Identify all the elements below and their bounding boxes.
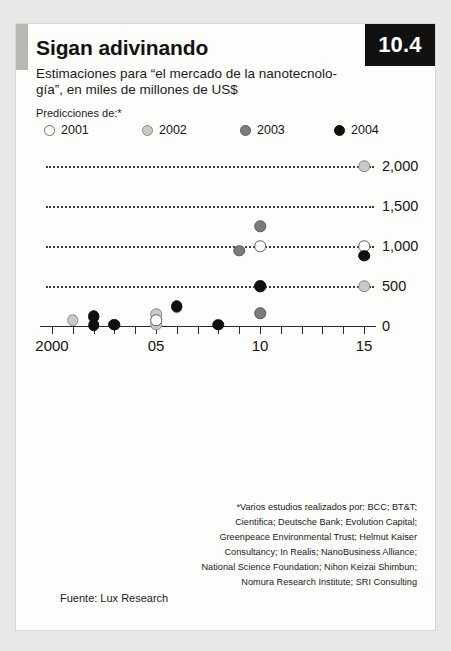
data-point bbox=[254, 220, 266, 232]
x-axis-tick-2010 bbox=[260, 327, 261, 334]
footnote-line: Nomura Research Institute; SRI Consultin… bbox=[117, 575, 417, 590]
y-axis-label-500: 500 bbox=[382, 278, 406, 294]
legend-item-2002[interactable]: 2002 bbox=[142, 123, 187, 137]
figure-number-badge: 10.4 bbox=[365, 24, 435, 66]
legend-marker-icon bbox=[334, 125, 345, 136]
data-point bbox=[88, 319, 100, 331]
page-root: 10.4 Sigan adivinando Estimaciones para … bbox=[0, 0, 451, 651]
left-accent-bar bbox=[16, 24, 28, 70]
data-point bbox=[358, 160, 370, 172]
footnote-line: Greenpeace Environmental Trust; Helmut K… bbox=[117, 530, 417, 545]
chart-subtitle: Estimaciones para “el mercado de la nano… bbox=[36, 66, 356, 99]
x-axis-tick-2014 bbox=[343, 327, 344, 334]
x-axis-tick-2011 bbox=[281, 327, 282, 334]
data-point bbox=[233, 245, 245, 257]
figure-number-text: 10.4 bbox=[378, 32, 422, 58]
legend-item-2001[interactable]: 2001 bbox=[44, 123, 89, 137]
legend-marker-icon bbox=[44, 125, 55, 136]
x-axis-tick-2012 bbox=[302, 327, 303, 334]
data-point bbox=[254, 307, 266, 319]
y-axis-label-0: 0 bbox=[382, 318, 390, 334]
x-axis-tick-2013 bbox=[322, 327, 323, 334]
data-point bbox=[171, 301, 183, 313]
data-point bbox=[67, 315, 79, 327]
x-axis-tick-2001 bbox=[73, 327, 74, 334]
legend-marker-icon bbox=[240, 125, 251, 136]
scatter-plot: 05001,0001,5002,0002000051015 bbox=[16, 154, 435, 344]
gridline-1500 bbox=[46, 206, 374, 208]
figure-card: 10.4 Sigan adivinando Estimaciones para … bbox=[16, 24, 435, 630]
legend-item-2003[interactable]: 2003 bbox=[240, 123, 285, 137]
legend-item-label: 2002 bbox=[159, 123, 187, 137]
legend-item-2004[interactable]: 2004 bbox=[334, 123, 379, 137]
x-axis-label-10: 10 bbox=[252, 337, 269, 354]
footnote-line: Cientifica; Deutsche Bank; Evolution Cap… bbox=[117, 515, 417, 530]
gridline-500 bbox=[46, 286, 374, 288]
legend-marker-icon bbox=[142, 125, 153, 136]
predictions-label: Predicciones de:* bbox=[36, 107, 122, 119]
legend-item-label: 2004 bbox=[351, 123, 379, 137]
y-axis-label-2000: 2,000 bbox=[382, 158, 418, 174]
data-point bbox=[254, 240, 266, 252]
data-point bbox=[358, 280, 370, 292]
footnote: *Varios estudios realizados por: BCC; BT… bbox=[117, 500, 417, 589]
x-axis-tick-2004 bbox=[135, 327, 136, 334]
data-point bbox=[150, 314, 162, 326]
y-axis-label-1500: 1,500 bbox=[382, 198, 418, 214]
x-axis-label-2000: 2000 bbox=[35, 337, 68, 354]
gridline-2000 bbox=[46, 166, 374, 168]
data-point bbox=[358, 250, 370, 262]
x-axis-tick-2007 bbox=[198, 327, 199, 334]
chart-legend: 2001200220032004 bbox=[44, 123, 404, 143]
legend-item-label: 2001 bbox=[61, 123, 89, 137]
x-axis-tick-2000 bbox=[52, 327, 53, 334]
page-title: Sigan adivinando bbox=[36, 36, 208, 60]
gridline-1000 bbox=[46, 246, 374, 248]
x-axis-tick-2009 bbox=[239, 327, 240, 334]
source-note: Fuente: Lux Research bbox=[60, 592, 168, 604]
footnote-line: *Varios estudios realizados por: BCC; BT… bbox=[117, 500, 417, 515]
y-axis-label-1000: 1,000 bbox=[382, 238, 418, 254]
data-point bbox=[254, 280, 266, 292]
footnote-line: National Science Foundation; Nihon Keiza… bbox=[117, 560, 417, 575]
x-axis-label-15: 15 bbox=[356, 337, 373, 354]
x-axis-tick-2015 bbox=[364, 327, 365, 334]
footnote-line: Consultancy; In Realis; NanoBusiness All… bbox=[117, 545, 417, 560]
data-point bbox=[109, 319, 121, 331]
data-point bbox=[213, 319, 225, 331]
x-axis-tick-2006 bbox=[177, 327, 178, 334]
legend-item-label: 2003 bbox=[257, 123, 285, 137]
x-axis-label-05: 05 bbox=[148, 337, 165, 354]
